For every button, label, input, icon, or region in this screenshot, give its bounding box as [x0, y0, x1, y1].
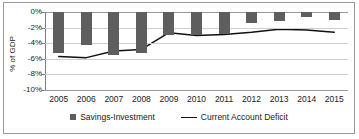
- gridline: [45, 74, 348, 75]
- bar-2010: [191, 12, 202, 35]
- y-axis-tick-mark: [41, 12, 45, 13]
- bar-2015: [329, 12, 340, 20]
- legend-label: Savings-Investment: [80, 112, 155, 122]
- bar-2009: [163, 12, 174, 35]
- legend-label: Current Account Deficit: [201, 112, 288, 122]
- legend-item-savings-investment: Savings-Investment: [70, 112, 155, 122]
- gridline: [45, 59, 348, 60]
- chart-plot-wrapper: % of GDP 0%-2%-4%-6%-8%-10% 200520062007…: [4, 3, 354, 133]
- bar-2013: [274, 12, 285, 21]
- y-axis-tick-mark: [41, 74, 45, 75]
- bar-2008: [136, 12, 147, 53]
- line-marker-icon: [181, 117, 197, 118]
- y-axis-tick-label: -10%: [16, 86, 42, 94]
- bar-2007: [108, 12, 119, 55]
- y-axis-tick-label: -2%: [16, 24, 42, 32]
- y-axis-tick-label: 0%: [16, 8, 42, 16]
- legend-item-current-account-deficit: Current Account Deficit: [181, 112, 288, 122]
- plot-area: [45, 12, 348, 90]
- bar-2006: [81, 12, 92, 45]
- y-axis-tick-mark: [41, 28, 45, 29]
- y-axis-tick-mark: [41, 43, 45, 44]
- bar-2012: [246, 12, 257, 23]
- x-axis-tick-labels: 2005200620072008200920102011201220132014…: [45, 93, 348, 105]
- y-axis-tick-mark: [41, 59, 45, 60]
- square-marker-icon: [70, 114, 76, 120]
- gridline: [45, 90, 348, 91]
- y-axis-tick-label: -8%: [16, 70, 42, 78]
- x-axis-tick-label-2015: 2015: [318, 93, 350, 105]
- y-axis-tick-mark: [41, 90, 45, 91]
- y-axis-tick-label: -4%: [16, 39, 42, 47]
- chart-legend: Savings-Investment Current Account Defic…: [4, 109, 354, 125]
- chart-container: % of GDP 0%-2%-4%-6%-8%-10% 200520062007…: [3, 2, 355, 134]
- bar-2005: [53, 12, 64, 53]
- y-axis-tick-label: -6%: [16, 55, 42, 63]
- bar-2011: [219, 12, 230, 34]
- bar-2014: [301, 12, 312, 17]
